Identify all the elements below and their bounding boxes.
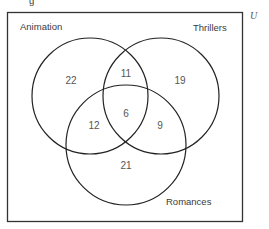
region-romances-only: 21 xyxy=(120,160,132,171)
romances-circle xyxy=(66,85,186,205)
romances-label: Romances xyxy=(166,196,212,207)
region-thrillers-only: 19 xyxy=(174,75,186,86)
animation-circle xyxy=(32,38,148,154)
region-all-three: 6 xyxy=(123,108,129,119)
cropped-text-fragment: g xyxy=(29,0,34,6)
universe-label: U xyxy=(250,10,258,21)
region-animation-only: 22 xyxy=(65,75,77,86)
region-thrillers-romances: 9 xyxy=(157,120,163,131)
animation-label: Animation xyxy=(20,21,62,32)
thrillers-label: Thrillers xyxy=(193,22,227,33)
region-animation-romances: 12 xyxy=(88,120,100,131)
region-animation-thrillers: 11 xyxy=(121,68,132,79)
venn-diagram: g U Animation Thrillers Romances 22 19 2… xyxy=(0,0,269,229)
